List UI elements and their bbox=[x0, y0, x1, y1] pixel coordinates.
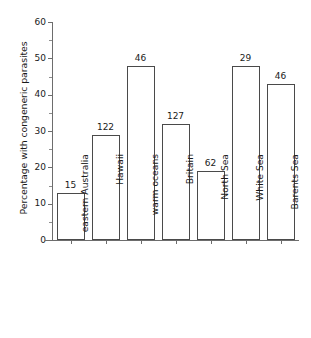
y-axis-minor-tick-mark bbox=[49, 149, 52, 150]
bar-value-label: 29 bbox=[222, 54, 270, 63]
x-axis-category-label: eastern Australia bbox=[78, 154, 92, 246]
y-axis-minor-tick-mark bbox=[49, 113, 52, 114]
x-axis-category-label: White Sea bbox=[253, 154, 267, 246]
x-axis-category-label: warm oceans bbox=[148, 154, 162, 246]
bar-value-label: 46 bbox=[257, 72, 305, 81]
y-axis-tick-label: 0 bbox=[26, 236, 46, 245]
y-axis-tick-mark bbox=[48, 240, 52, 241]
y-axis-tick-label: 30 bbox=[26, 127, 46, 136]
x-axis-tick-mark bbox=[141, 241, 142, 244]
x-axis-tick-mark bbox=[71, 241, 72, 244]
x-axis-category-label: Hawaii bbox=[113, 154, 127, 246]
y-axis-minor-tick-mark bbox=[49, 77, 52, 78]
x-axis-tick-mark bbox=[281, 241, 282, 244]
x-axis-tick-mark bbox=[246, 241, 247, 244]
y-axis-tick-label: 40 bbox=[26, 90, 46, 99]
y-axis-tick-mark bbox=[48, 22, 52, 23]
y-axis-tick-mark bbox=[48, 167, 52, 168]
y-axis-tick-label: 60 bbox=[26, 18, 46, 27]
y-axis-tick-label: 20 bbox=[26, 163, 46, 172]
y-axis-tick-labels: 0102030405060 bbox=[22, 0, 46, 338]
x-axis-category-label: Britain bbox=[183, 154, 197, 246]
y-axis-tick-mark bbox=[48, 95, 52, 96]
y-axis-tick-label: 50 bbox=[26, 54, 46, 63]
y-axis-line bbox=[52, 22, 53, 241]
x-axis-category-label: North Sea bbox=[218, 154, 232, 246]
y-axis-tick-mark bbox=[48, 204, 52, 205]
x-axis-category-label: Barents Sea bbox=[288, 154, 302, 246]
x-axis-tick-mark bbox=[106, 241, 107, 244]
bar-value-label: 127 bbox=[152, 112, 200, 121]
y-axis-tick-mark bbox=[48, 58, 52, 59]
y-axis-minor-tick-mark bbox=[49, 40, 52, 41]
x-axis-tick-mark bbox=[211, 241, 212, 244]
x-axis-tick-mark bbox=[176, 241, 177, 244]
y-axis-tick-mark bbox=[48, 131, 52, 132]
bar-value-label: 46 bbox=[117, 54, 165, 63]
y-axis-tick-label: 10 bbox=[26, 199, 46, 208]
y-axis-minor-tick-mark bbox=[49, 222, 52, 223]
bar-chart: Percentage with congeneric parasites 010… bbox=[0, 0, 311, 338]
bar-value-label: 122 bbox=[82, 123, 130, 132]
